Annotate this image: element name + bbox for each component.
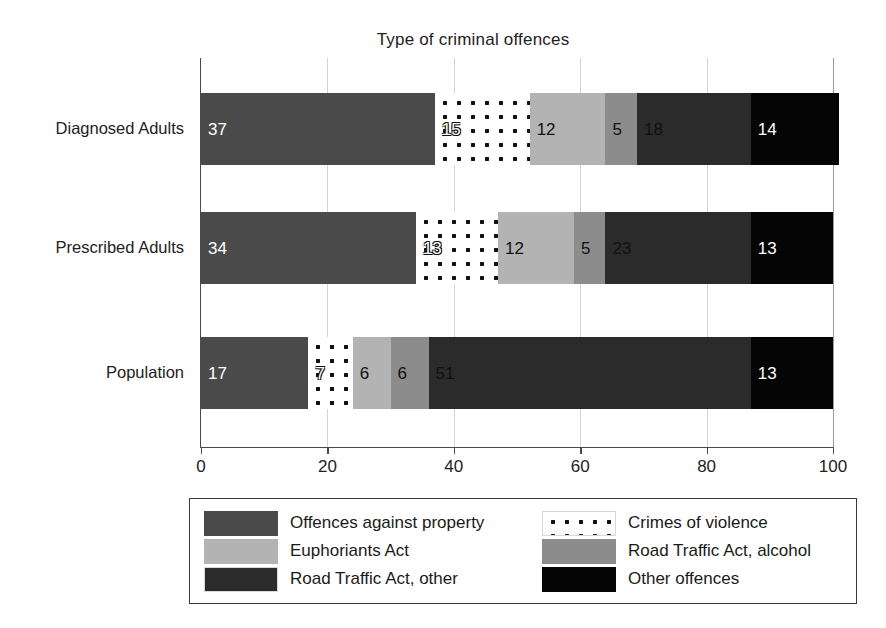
bar-segment-violence: 13 bbox=[416, 212, 498, 284]
bar-segment-value: 13 bbox=[751, 365, 777, 382]
legend-item-property[interactable]: Offences against property bbox=[204, 511, 542, 536]
bar-segment-value: 51 bbox=[429, 365, 455, 382]
legend-swatch-icon bbox=[542, 567, 616, 592]
x-axis-tick bbox=[707, 447, 708, 454]
bar-segment-value: 14 bbox=[751, 121, 777, 138]
bar-segment-value: 5 bbox=[605, 121, 621, 138]
bar-segment-value: 15 bbox=[435, 121, 461, 138]
legend-label: Crimes of violence bbox=[628, 513, 768, 533]
legend-label: Euphoriants Act bbox=[290, 541, 409, 561]
bar-segment-other: 13 bbox=[751, 337, 833, 409]
legend-label: Other offences bbox=[628, 569, 739, 589]
bar-segment-road_other: 51 bbox=[429, 337, 751, 409]
x-axis-tick bbox=[833, 447, 834, 454]
bar-segment-value: 7 bbox=[308, 365, 324, 382]
bar-segment-value: 12 bbox=[498, 240, 524, 257]
bar-segment-value: 13 bbox=[416, 240, 442, 257]
legend-label: Road Traffic Act, alcohol bbox=[628, 541, 811, 561]
legend-item-other[interactable]: Other offences bbox=[542, 567, 844, 592]
x-axis-tick bbox=[454, 447, 455, 454]
bar-segment-violence: 7 bbox=[308, 337, 352, 409]
x-axis-tick-label: 60 bbox=[571, 457, 590, 477]
x-axis-tick-label: 20 bbox=[318, 457, 337, 477]
legend-item-violence[interactable]: Crimes of violence bbox=[542, 511, 844, 536]
bar-segment-value: 37 bbox=[201, 121, 227, 138]
bar-segment-value: 13 bbox=[751, 240, 777, 257]
x-axis-tick-label: 100 bbox=[819, 457, 847, 477]
bar-segment-road_other: 23 bbox=[605, 212, 750, 284]
x-axis-tick-label: 0 bbox=[196, 457, 205, 477]
bar-segment-value: 34 bbox=[201, 240, 227, 257]
legend-item-road_other[interactable]: Road Traffic Act, other bbox=[204, 567, 542, 592]
x-axis-tick bbox=[201, 447, 202, 454]
y-axis-category-label: Population bbox=[106, 363, 184, 382]
y-axis-category-label: Prescribed Adults bbox=[56, 238, 184, 257]
x-axis-tick bbox=[327, 447, 328, 454]
y-axis-category-label: Diagnosed Adults bbox=[56, 119, 184, 138]
legend-swatch-icon bbox=[542, 539, 616, 564]
bar-segment-value: 6 bbox=[391, 365, 407, 382]
stacked-bar: 177665113 bbox=[201, 337, 833, 409]
x-axis-tick-label: 40 bbox=[444, 457, 463, 477]
bar-segment-euphoriants: 12 bbox=[498, 212, 574, 284]
x-axis-tick bbox=[580, 447, 581, 454]
bar-segment-value: 5 bbox=[574, 240, 590, 257]
bar-segment-alcohol: 6 bbox=[391, 337, 429, 409]
bar-segment-alcohol: 5 bbox=[574, 212, 606, 284]
bar-segment-property: 34 bbox=[201, 212, 416, 284]
bar-segment-other: 14 bbox=[751, 93, 839, 165]
x-axis-tick-label: 80 bbox=[697, 457, 716, 477]
legend-swatch-icon bbox=[204, 539, 278, 564]
bar-segment-value: 23 bbox=[605, 240, 631, 257]
legend-label: Road Traffic Act, other bbox=[290, 569, 458, 589]
bar-segment-road_other: 18 bbox=[637, 93, 751, 165]
legend-label: Offences against property bbox=[290, 513, 484, 533]
bar-segment-euphoriants: 12 bbox=[530, 93, 606, 165]
stacked-bar: 37151251814 bbox=[201, 93, 833, 165]
bar-segment-violence: 15 bbox=[435, 93, 530, 165]
stacked-bar-chart: Type of criminal offences 02040608010037… bbox=[0, 0, 886, 628]
legend-item-alcohol[interactable]: Road Traffic Act, alcohol bbox=[542, 539, 844, 564]
legend: Offences against propertyCrimes of viole… bbox=[189, 498, 857, 604]
bar-segment-value: 17 bbox=[201, 365, 227, 382]
legend-swatch-icon bbox=[204, 511, 278, 536]
plot-area: 0204060801003715125181434131252313177665… bbox=[201, 58, 833, 448]
bar-segment-other: 13 bbox=[751, 212, 833, 284]
bar-segment-value: 6 bbox=[353, 365, 369, 382]
legend-swatch-icon bbox=[204, 567, 278, 592]
bar-segment-property: 17 bbox=[201, 337, 308, 409]
stacked-bar: 34131252313 bbox=[201, 212, 833, 284]
bar-segment-alcohol: 5 bbox=[605, 93, 637, 165]
bar-segment-property: 37 bbox=[201, 93, 435, 165]
legend-swatch-icon bbox=[542, 511, 616, 536]
x-axis-line bbox=[200, 447, 834, 448]
bar-segment-value: 12 bbox=[530, 121, 556, 138]
legend-item-euphoriants[interactable]: Euphoriants Act bbox=[204, 539, 542, 564]
bar-segment-value: 18 bbox=[637, 121, 663, 138]
chart-title: Type of criminal offences bbox=[0, 30, 886, 50]
bar-segment-euphoriants: 6 bbox=[353, 337, 391, 409]
